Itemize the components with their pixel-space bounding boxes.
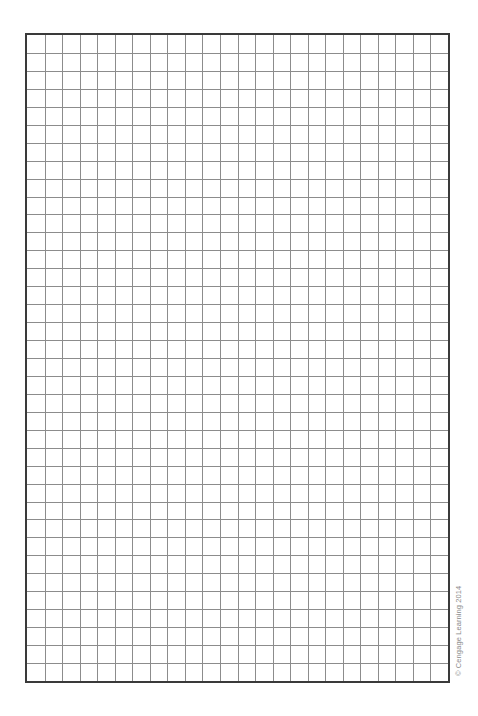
graph-paper-grid xyxy=(25,33,450,683)
grid-lines xyxy=(27,35,448,681)
copyright-notice: © Cengage Learning 2014 xyxy=(455,586,463,676)
